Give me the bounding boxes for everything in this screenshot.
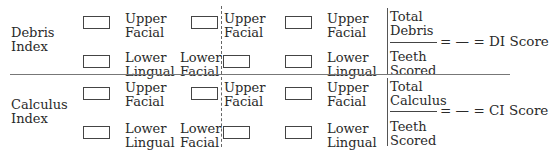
label-upper: Upper	[327, 11, 369, 26]
label-facial: Facial	[224, 94, 263, 109]
lower-lingual-score-box[interactable]	[83, 55, 110, 68]
section-title-line1: Calculus	[11, 97, 68, 112]
label-upper: Upper	[327, 80, 369, 95]
label-lingual: Lingual	[327, 135, 377, 150]
label-lingual: Lingual	[125, 135, 175, 150]
upper-facial-score-box[interactable]	[83, 87, 110, 100]
label-facial: Facial	[224, 25, 263, 40]
numerator-line1: Total	[390, 79, 423, 94]
label-upper: Upper	[125, 11, 167, 26]
section-separator	[10, 74, 510, 75]
section-title-line2: Index	[11, 39, 48, 54]
label-upper: Upper	[224, 11, 266, 26]
denominator-line1: Teeth	[390, 119, 427, 134]
label-facial: Facial	[125, 25, 164, 40]
label-upper: Upper	[125, 80, 167, 95]
denominator-line2: Scored	[390, 63, 436, 78]
formula-divider	[387, 78, 388, 146]
upper-facial-score-box[interactable]	[285, 16, 312, 29]
label-upper: Upper	[224, 80, 266, 95]
upper-facial-score-box[interactable]	[191, 16, 218, 29]
upper-facial-score-box[interactable]	[83, 16, 110, 29]
lower-facial-score-box[interactable]	[223, 55, 250, 68]
numerator-line2: Calculus	[390, 93, 447, 108]
denominator-line2: Scored	[390, 133, 436, 148]
label-facial: Facial	[125, 94, 164, 109]
fraction-bar	[390, 42, 437, 43]
upper-facial-score-box[interactable]	[285, 87, 312, 100]
fraction-bar	[390, 111, 437, 112]
formula-divider	[387, 8, 388, 74]
ci-score-equation: = — = CI Score	[440, 103, 548, 118]
label-facial: Facial	[180, 135, 219, 150]
label-lower: Lower	[125, 50, 167, 65]
lower-lingual-score-box[interactable]	[285, 126, 312, 139]
upper-facial-score-box[interactable]	[191, 87, 218, 100]
label-lower: Lower	[125, 121, 167, 136]
label-lower: Lower	[327, 50, 369, 65]
lower-lingual-score-box[interactable]	[83, 126, 110, 139]
label-facial: Facial	[180, 64, 219, 79]
label-lingual: Lingual	[327, 64, 377, 79]
section-title-line1: Debris	[11, 25, 54, 40]
numerator-line1: Total	[390, 9, 423, 24]
dashed-midline-divider	[221, 77, 222, 147]
label-lower: Lower	[180, 50, 219, 65]
section-title-line2: Index	[11, 111, 48, 126]
label-lower: Lower	[327, 121, 369, 136]
denominator-line1: Teeth	[390, 49, 427, 64]
lower-facial-score-box[interactable]	[223, 126, 250, 139]
label-lower: Lower	[180, 121, 219, 136]
di-score-equation: = — = DI Score	[440, 34, 549, 49]
numerator-line2: Debris	[390, 23, 433, 38]
label-lingual: Lingual	[125, 64, 175, 79]
label-facial: Facial	[327, 94, 366, 109]
label-facial: Facial	[327, 25, 366, 40]
lower-lingual-score-box[interactable]	[285, 55, 312, 68]
